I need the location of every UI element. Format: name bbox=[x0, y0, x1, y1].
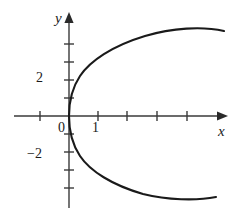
y-tick-label-neg2: −2 bbox=[27, 147, 42, 161]
y-tick-label-2: 2 bbox=[36, 71, 43, 85]
x-axis-arrowhead bbox=[217, 111, 228, 120]
x-axis-label: x bbox=[218, 124, 225, 139]
y-axis-label: y bbox=[55, 11, 62, 26]
plot-canvas bbox=[0, 0, 237, 220]
y-axis-arrowhead bbox=[64, 12, 73, 23]
parabola-figure: y x 0 1 2 −2 bbox=[0, 0, 237, 220]
parabola-upper-branch bbox=[69, 28, 224, 116]
origin-label: 0 bbox=[58, 121, 65, 135]
x-tick-label-1: 1 bbox=[92, 121, 99, 135]
